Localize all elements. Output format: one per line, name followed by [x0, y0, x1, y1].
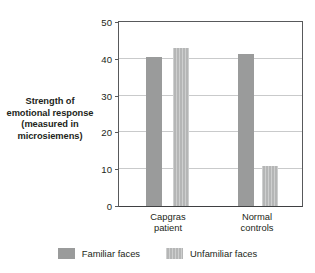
bar-capgras-familiar: [146, 57, 162, 206]
y-tick-mark-0: [115, 206, 119, 207]
chart-legend: Familiar faces Unfamiliar faces: [0, 248, 315, 259]
y-tick-mark-30: [115, 96, 119, 97]
x-category-label-normal-line-2: controls: [202, 222, 312, 233]
legend-swatch-unfamiliar-faces: [166, 248, 183, 259]
y-axis-title-line-3: (measured in: [2, 119, 98, 131]
y-tick-mark-20: [115, 132, 119, 133]
y-tick-label-0: 0: [107, 201, 112, 212]
x-category-label-normal-line-1: Normal: [202, 211, 312, 222]
bar-normal-familiar: [238, 54, 254, 206]
y-tick-mark-10: [115, 169, 119, 170]
legend-item-unfamiliar-faces: Unfamiliar faces: [166, 248, 257, 259]
bar-normal-unfamiliar: [262, 166, 278, 206]
y-axis-title-line-1: Strength of: [2, 96, 98, 108]
y-tick-label-40: 40: [101, 53, 112, 64]
y-axis-title-line-4: microsiemens): [2, 131, 98, 143]
y-tick-mark-40: [115, 59, 119, 60]
y-tick-label-10: 10: [101, 164, 112, 175]
legend-label-familiar-faces: Familiar faces: [82, 248, 140, 259]
legend-item-familiar-faces: Familiar faces: [58, 248, 140, 259]
y-tick-label-30: 30: [101, 90, 112, 101]
bar-chart-figure: Strength of emotional response (measured…: [0, 0, 315, 273]
y-tick-label-20: 20: [101, 127, 112, 138]
legend-label-unfamiliar-faces: Unfamiliar faces: [190, 248, 257, 259]
x-category-label-normal: Normal controls: [202, 211, 312, 234]
plot-area: 0 10 20 30 40 50: [118, 21, 303, 207]
y-axis-title-line-2: emotional response: [2, 108, 98, 120]
legend-swatch-familiar-faces: [58, 248, 75, 259]
bar-capgras-unfamiliar: [173, 48, 189, 206]
y-tick-mark-50: [115, 22, 119, 23]
y-axis-title: Strength of emotional response (measured…: [2, 96, 98, 142]
y-tick-label-50: 50: [101, 17, 112, 28]
